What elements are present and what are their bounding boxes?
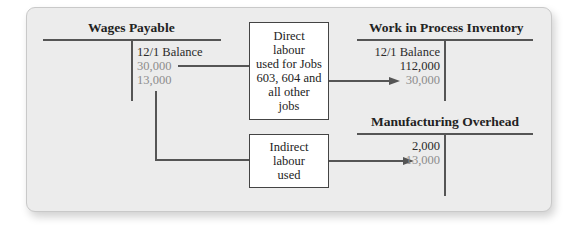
connector-line bbox=[155, 91, 157, 161]
credit-entry: 30,000 bbox=[137, 59, 171, 74]
debit-entry: 30,000 bbox=[406, 73, 440, 88]
box-text: Direct bbox=[256, 29, 322, 43]
account-title: Wages Payable bbox=[88, 20, 175, 36]
credit-entry: 13,000 bbox=[137, 73, 171, 88]
account-title: Manufacturing Overhead bbox=[371, 114, 519, 130]
box-text: labour bbox=[270, 154, 309, 168]
debit-entry: 2,000 bbox=[412, 139, 440, 154]
direct-labour-box: Direct labour used for Jobs 603, 604 and… bbox=[249, 22, 329, 120]
box-text: Indirect bbox=[270, 140, 309, 154]
box-text: all other bbox=[256, 85, 322, 99]
box-text: used for Jobs bbox=[256, 57, 322, 71]
box-text: 603, 604 and bbox=[256, 71, 322, 85]
arrow-line bbox=[329, 80, 391, 82]
balance-label: 12/1 Balance bbox=[374, 45, 440, 60]
account-title: Work in Process Inventory bbox=[369, 20, 524, 36]
arrow-line bbox=[329, 160, 405, 162]
indirect-labour-box: Indirect labour used bbox=[249, 134, 329, 188]
arrow-head-icon bbox=[389, 77, 400, 85]
t-account-vertical-line bbox=[444, 39, 446, 101]
box-text: labour bbox=[256, 43, 322, 57]
balance-value: 112,000 bbox=[400, 59, 440, 74]
t-account-vertical-line bbox=[131, 39, 133, 101]
box-text: used bbox=[270, 168, 309, 182]
debit-entry: 13,000 bbox=[406, 153, 440, 168]
balance-label: 12/1 Balance bbox=[137, 45, 203, 60]
box-text: jobs bbox=[256, 99, 322, 113]
connector-line bbox=[155, 159, 249, 161]
t-account-vertical-line bbox=[444, 133, 446, 196]
connector-line bbox=[178, 65, 249, 67]
